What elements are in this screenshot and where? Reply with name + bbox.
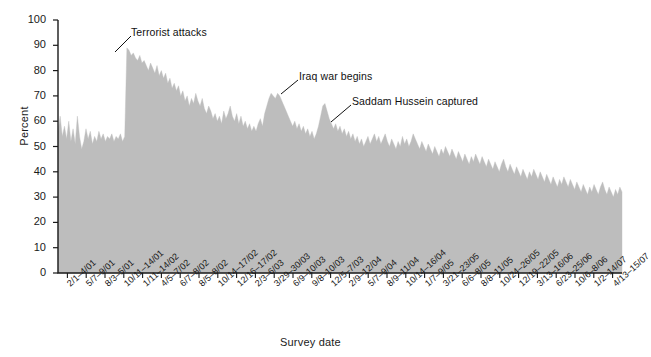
y-tick-label: 0 [20, 266, 46, 278]
y-tick-label: 70 [20, 89, 46, 101]
y-tick-label: 10 [20, 241, 46, 253]
y-tick-label: 80 [20, 64, 46, 76]
y-tick-label: 100 [20, 13, 46, 25]
x-axis-title: Survey date [280, 336, 341, 348]
annotation-label: Saddam Hussein captured [352, 95, 478, 107]
annotation-label: Terrorist attacks [131, 26, 207, 38]
annotation-label: Iraq war begins [299, 70, 372, 82]
annotation-leader-line [331, 105, 351, 122]
y-tick-label: 90 [20, 38, 46, 50]
y-tick-label: 30 [20, 190, 46, 202]
y-tick-label: 50 [20, 140, 46, 152]
y-tick-label: 40 [20, 165, 46, 177]
y-tick-label: 60 [20, 114, 46, 126]
y-tick-label: 20 [20, 215, 46, 227]
annotation-leader-line [281, 80, 298, 94]
